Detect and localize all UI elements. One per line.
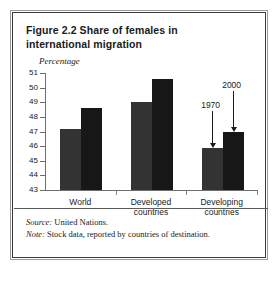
notes-divider: [14, 208, 268, 209]
y-tick-label: 46: [16, 142, 38, 150]
annotation-arrowhead-2000: [231, 127, 237, 132]
y-tick-label-wrap: 43: [13, 186, 38, 194]
y-axis-title: Percentage: [39, 56, 80, 66]
x-axis-line: [45, 190, 258, 191]
x-category-label: World: [45, 197, 116, 207]
y-tick-mark: [40, 190, 46, 191]
y-tick-label: 44: [16, 171, 38, 179]
y-tick-label-wrap: 48: [13, 113, 38, 121]
y-tick-label-wrap: 51: [13, 69, 38, 77]
x-axis-end-tick: [257, 191, 258, 195]
note-value: Stock data, reported by countries of des…: [45, 229, 210, 239]
bar: [152, 79, 173, 190]
y-tick-label: 43: [16, 186, 38, 194]
y-tick-label-wrap: 46: [13, 142, 38, 150]
source-label: Source:: [26, 217, 52, 227]
bar: [223, 132, 244, 191]
figure-title: Figure 2.2 Share of females in internati…: [26, 23, 231, 51]
x-group-separator: [116, 191, 117, 195]
y-tick-label: 50: [16, 84, 38, 92]
y-tick-label-wrap: 45: [13, 157, 38, 165]
source-value: United Nations.: [52, 217, 108, 227]
annotation-label-1970: 1970: [201, 100, 220, 110]
x-category-label: Developingcountries: [186, 197, 257, 217]
chart-plot-area: Percentage 434445464748495051 WorldDevel…: [13, 56, 269, 226]
x-category-label: Developedcountries: [116, 197, 187, 217]
bar: [81, 108, 102, 190]
y-tick-label: 49: [16, 98, 38, 106]
bar: [202, 148, 223, 190]
source-line: Source: United Nations.: [26, 216, 258, 228]
figure-inner-frame: Figure 2.2 Share of females in internati…: [12, 12, 266, 258]
y-tick-label: 45: [16, 157, 38, 165]
y-tick-label-wrap: 50: [13, 84, 38, 92]
y-tick-label-wrap: 47: [13, 128, 38, 136]
figure-container: Figure 2.2 Share of females in internati…: [10, 10, 268, 260]
annotation-arrowhead-1970: [210, 143, 216, 148]
note-label: Note:: [26, 229, 45, 239]
bar: [131, 102, 152, 190]
y-tick-label: 47: [16, 128, 38, 136]
x-group-separator: [186, 191, 187, 195]
figure-notes: Source: United Nations. Note: Stock data…: [26, 216, 258, 240]
y-tick-label: 48: [16, 113, 38, 121]
annotation-arrow-2000: [233, 91, 234, 127]
annotation-label-2000: 2000: [222, 80, 241, 90]
y-tick-label: 51: [16, 69, 38, 77]
note-line: Note: Stock data, reported by countries …: [26, 228, 258, 240]
y-tick-label-wrap: 44: [13, 171, 38, 179]
bar: [60, 129, 81, 190]
bars-layer: [46, 73, 258, 190]
annotation-arrow-1970: [212, 111, 213, 143]
y-tick-label-wrap: 49: [13, 98, 38, 106]
